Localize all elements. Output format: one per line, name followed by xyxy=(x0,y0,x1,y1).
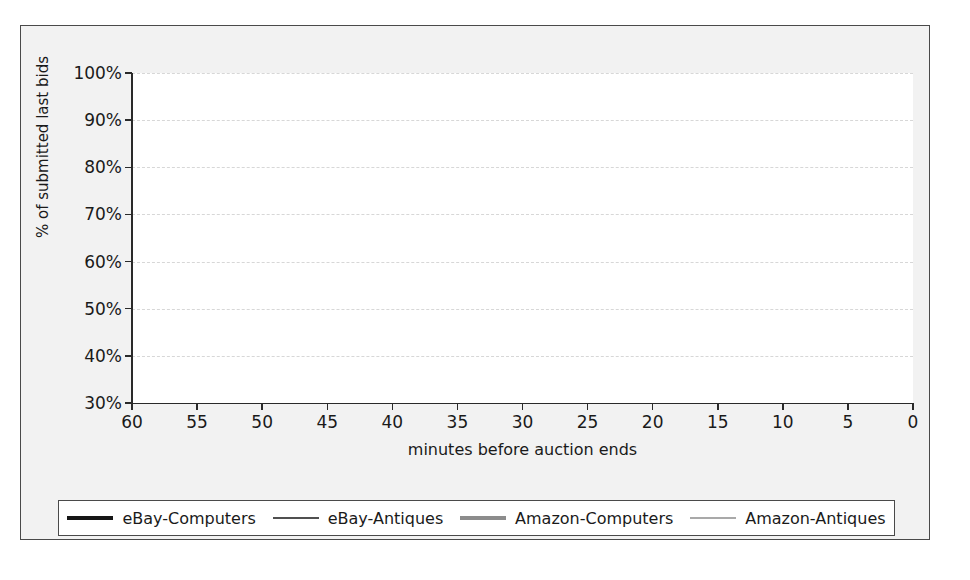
x-axis-label: minutes before auction ends xyxy=(132,440,913,459)
x-tick-mark xyxy=(717,403,719,410)
legend-label: eBay-Computers xyxy=(122,509,255,528)
legend-item[interactable]: Amazon-Computers xyxy=(460,509,673,528)
x-tick-label: 30 xyxy=(512,414,534,431)
x-tick-mark xyxy=(912,403,914,410)
x-tick-label: 15 xyxy=(707,414,729,431)
gridline xyxy=(132,309,913,311)
thick-gray-line-icon xyxy=(460,515,506,521)
x-tick-mark xyxy=(522,403,524,410)
chart-legend: eBay-ComputerseBay-AntiquesAmazon-Comput… xyxy=(58,500,895,536)
x-tick-label: 35 xyxy=(447,414,469,431)
x-tick-label: 40 xyxy=(382,414,404,431)
y-tick-label: 30% xyxy=(84,395,122,412)
line-chart: % of submitted last bids 30%40%50%60%70%… xyxy=(0,0,970,580)
x-tick-mark xyxy=(131,403,133,410)
x-tick-label: 45 xyxy=(316,414,338,431)
gridline xyxy=(132,120,913,122)
thick-black-line-icon xyxy=(67,515,113,521)
x-tick-mark xyxy=(196,403,198,410)
x-tick-label: 10 xyxy=(772,414,794,431)
x-axis-line xyxy=(131,403,914,405)
x-tick-mark xyxy=(327,403,329,410)
gridline xyxy=(132,167,913,169)
x-tick-mark xyxy=(587,403,589,410)
y-axis-label: % of submitted last bids xyxy=(34,56,52,238)
y-tick-label: 50% xyxy=(84,300,122,317)
x-tick-mark xyxy=(457,403,459,410)
x-tick-mark xyxy=(782,403,784,410)
legend-label: eBay-Antiques xyxy=(328,509,444,528)
legend-item[interactable]: eBay-Computers xyxy=(67,509,255,528)
x-tick-label: 20 xyxy=(642,414,664,431)
gridline xyxy=(132,262,913,264)
plot-background xyxy=(132,73,913,403)
x-tick-mark xyxy=(652,403,654,410)
y-tick-label: 100% xyxy=(73,65,122,82)
x-tick-mark xyxy=(847,403,849,410)
x-tick-label: 5 xyxy=(842,414,853,431)
x-tick-mark xyxy=(392,403,394,410)
gridline xyxy=(132,214,913,216)
x-tick-label: 55 xyxy=(186,414,208,431)
thin-black-line-icon xyxy=(273,515,319,521)
x-tick-mark xyxy=(261,403,263,410)
x-tick-label: 50 xyxy=(251,414,273,431)
legend-item[interactable]: eBay-Antiques xyxy=(273,509,444,528)
legend-label: Amazon-Computers xyxy=(515,509,673,528)
x-tick-label: 60 xyxy=(121,414,143,431)
x-tick-label: 0 xyxy=(908,414,919,431)
y-tick-label: 70% xyxy=(84,206,122,223)
y-tick-label: 80% xyxy=(84,159,122,176)
y-tick-label: 60% xyxy=(84,253,122,270)
y-tick-label: 90% xyxy=(84,112,122,129)
plot-area: 30%40%50%60%70%80%90%100% 60555045403530… xyxy=(132,73,913,403)
legend-item[interactable]: Amazon-Antiques xyxy=(690,509,885,528)
legend-label: Amazon-Antiques xyxy=(745,509,885,528)
gridline xyxy=(132,73,913,75)
y-axis-line xyxy=(131,73,133,404)
figure-page: % of submitted last bids 30%40%50%60%70%… xyxy=(0,0,970,580)
x-tick-label: 25 xyxy=(577,414,599,431)
gridline xyxy=(132,356,913,358)
y-tick-label: 40% xyxy=(84,347,122,364)
thin-gray-line-icon xyxy=(690,515,736,521)
